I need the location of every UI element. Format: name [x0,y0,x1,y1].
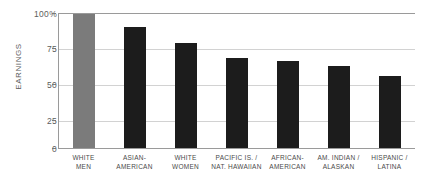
bar-slot-white-women [161,14,212,148]
category-label-african-american: AFRICAN- AMERICAN [262,153,313,171]
bar-white-women [175,43,197,148]
y-tick-mark-0 [52,148,56,149]
category-label-line2: AMERICAN [109,162,160,171]
category-label-hispanic-latina: HISPANIC / LATINA [364,153,415,171]
category-label-line2: LATINA [364,162,415,171]
category-label-pacific-islander-native-hawaiian: PACIFIC IS. / NAT. HAWAIIAN [211,153,262,171]
category-label-line2: WOMEN [160,162,211,171]
bar-pacific-islander-native-hawaiian [226,58,248,148]
bar-american-indian-alaskan [328,66,350,148]
bar-slot-american-indian-alaskan [313,14,364,148]
y-tick-mark-100 [52,13,56,14]
earnings-bar-chart: EARNINGS 100% 75 50 25 0 [0,0,425,186]
category-label-white-men: WHITE MEN [58,153,109,171]
bar-hispanic-latina [379,76,401,148]
category-label-line1: ASIAN- [109,153,160,162]
y-tick-mark-75 [52,48,56,49]
y-tick-label-75: 75 [13,44,57,54]
bar-slot-pacific-islander-native-hawaiian [212,14,263,148]
category-label-line1: AFRICAN- [262,153,313,162]
bar-slot-asian-american [110,14,161,148]
plot-area [58,13,415,149]
y-tick-mark-50 [52,84,56,85]
y-tick-label-100: 100% [13,9,57,19]
category-label-line1: HISPANIC / [364,153,415,162]
category-label-american-indian-alaskan: AM. INDIAN / ALASKAN [313,153,364,171]
category-label-white-women: WHITE WOMEN [160,153,211,171]
bar-slot-hispanic-latina [364,14,415,148]
category-label-line2: MEN [58,162,109,171]
category-label-line2: AMERICAN [262,162,313,171]
y-tick-mark-25 [52,120,56,121]
bar-slot-white-men [59,14,110,148]
category-axis-labels: WHITE MEN ASIAN- AMERICAN WHITE WOMEN PA… [58,153,415,171]
category-label-line1: AM. INDIAN / [313,153,364,162]
category-label-asian-american: ASIAN- AMERICAN [109,153,160,171]
y-tick-label-0: 0 [13,144,57,154]
y-tick-label-50: 50 [13,80,57,90]
category-label-line1: WHITE [160,153,211,162]
category-label-line1: PACIFIC IS. / [211,153,262,162]
category-label-line2: NAT. HAWAIIAN [211,162,262,171]
y-axis-title: EARNINGS [14,17,23,117]
y-tick-label-25: 25 [13,116,57,126]
category-label-line2: ALASKAN [313,162,364,171]
bar-white-men [73,14,95,148]
bar-slot-african-american [262,14,313,148]
bar-african-american [277,61,299,148]
bars-layer [59,14,415,148]
category-label-line1: WHITE [58,153,109,162]
bar-asian-american [124,27,146,148]
